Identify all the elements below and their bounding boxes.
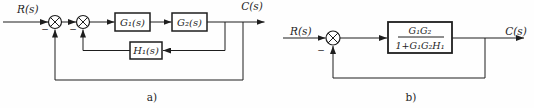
caption-b: b) [406, 91, 417, 103]
sum-minus-sign: − [317, 45, 325, 55]
input-signal-label: R(s) [289, 25, 312, 37]
diagram-b: R(s) − G₁G₂ 1+G₁G₂H₁ C(s) b) [283, 22, 527, 103]
block-g2-label: G₂(s) [177, 17, 202, 28]
diagram-a: R(s) − − G₁(s) G₂(s) C(s) H₁(s) a) [3, 0, 265, 103]
sum2-minus-sign: − [69, 24, 77, 34]
input-signal-label: R(s) [16, 3, 39, 15]
figure-canvas: R(s) − − G₁(s) G₂(s) C(s) H₁(s) a) [0, 0, 534, 108]
sum1-minus-sign: − [41, 24, 49, 34]
output-signal-label: C(s) [241, 0, 263, 12]
output-signal-label: C(s) [505, 25, 527, 37]
caption-a: a) [147, 91, 157, 103]
wire-h1-to-sum2 [83, 30, 130, 51]
block-g1-label: G₁(s) [120, 17, 145, 28]
transfer-function-denominator: 1+G₁G₂H₁ [396, 40, 445, 51]
block-h1-label: H₁(s) [132, 45, 159, 56]
block-diagram-figure: R(s) − − G₁(s) G₂(s) C(s) H₁(s) a) [0, 0, 534, 108]
transfer-function-numerator: G₁G₂ [409, 25, 432, 36]
